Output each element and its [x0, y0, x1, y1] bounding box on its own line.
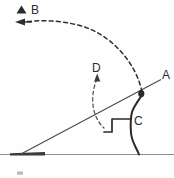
- label-c: C: [134, 114, 143, 128]
- label-b: B: [31, 3, 39, 17]
- triangle-marker-b: [17, 6, 27, 14]
- page-smudge: [17, 172, 23, 175]
- label-d: D: [92, 61, 101, 75]
- diagram-canvas: B A D C: [0, 0, 174, 178]
- label-a: A: [162, 68, 170, 82]
- velocity-arrow-b: [15, 18, 25, 25]
- thrower-figure-arm: [104, 119, 131, 132]
- physics-diagram: B A D C: [0, 0, 174, 178]
- dashed-arc-d: [93, 79, 104, 128]
- launch-pad-mark: [10, 152, 45, 156]
- dashed-trajectory-arc: [24, 21, 142, 92]
- projectile-dot: [138, 90, 144, 97]
